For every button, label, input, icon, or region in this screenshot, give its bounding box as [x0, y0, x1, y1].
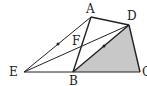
label-e: E	[9, 65, 18, 79]
label-d: D	[127, 9, 137, 23]
label-f: F	[72, 34, 80, 48]
label-c: C	[142, 65, 147, 79]
midpoint-mark-ea	[57, 43, 60, 46]
label-a: A	[85, 2, 95, 16]
label-b: B	[69, 74, 78, 86]
midpoint-mark-bd	[103, 45, 106, 48]
segment-ad	[91, 17, 129, 25]
geometry-diagram: A D F E B C	[0, 0, 147, 86]
